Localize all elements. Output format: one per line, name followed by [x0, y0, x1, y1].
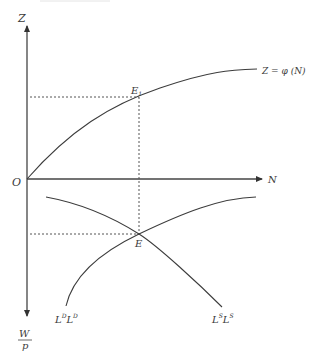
labour-supply-curve [66, 197, 256, 306]
supply-curve-label: LSLS [211, 312, 234, 325]
supply-sup2: S [229, 312, 233, 319]
e1-label-sub: 1 [138, 90, 142, 97]
labour-market-diagram: Z O N E1 E Z = φ (N) LDLD LSLS W p [0, 0, 314, 352]
demand-curve-label: LDLD [54, 312, 78, 325]
labour-demand-curve [46, 197, 222, 307]
e1-label: E1 [130, 85, 142, 97]
n-axis-label: N [267, 174, 278, 185]
real-wage-numerator: W [19, 328, 30, 339]
production-function-label: Z = φ (N) [261, 66, 306, 76]
real-wage-denominator: p [22, 340, 29, 351]
z-axis-label: Z [17, 12, 26, 25]
e-label: E [134, 238, 143, 249]
origin-label: O [12, 176, 21, 189]
demand-sup2: D [72, 312, 78, 319]
production-function-curve [27, 69, 257, 179]
